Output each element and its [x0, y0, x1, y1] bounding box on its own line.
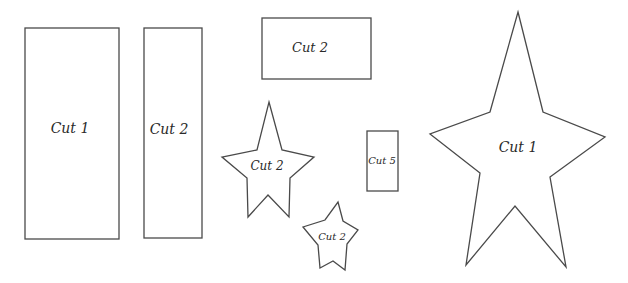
- piece-tall-rect: Cut 1: [25, 28, 119, 239]
- large-star-label: Cut 1: [499, 139, 538, 155]
- pattern-sheet: Cut 1 Cut 2 Cut 2 Cut 2 Cut 5 Cut 2 Cut …: [0, 0, 628, 283]
- medium-star-label: Cut 2: [250, 159, 283, 173]
- tall-rect-label: Cut 1: [51, 120, 90, 136]
- piece-wide-rect: Cut 2: [262, 18, 371, 79]
- piece-medium-star: Cut 2: [222, 102, 314, 217]
- wide-rect-label: Cut 2: [292, 40, 328, 55]
- piece-large-star: Cut 1: [430, 12, 605, 267]
- small-rect-label: Cut 5: [368, 155, 396, 166]
- piece-small-star: Cut 2: [303, 202, 358, 270]
- piece-small-rect: Cut 5: [367, 131, 398, 191]
- small-star-label: Cut 2: [318, 231, 346, 242]
- piece-narrow-rect: Cut 2: [144, 28, 202, 238]
- narrow-rect-label: Cut 2: [150, 121, 189, 137]
